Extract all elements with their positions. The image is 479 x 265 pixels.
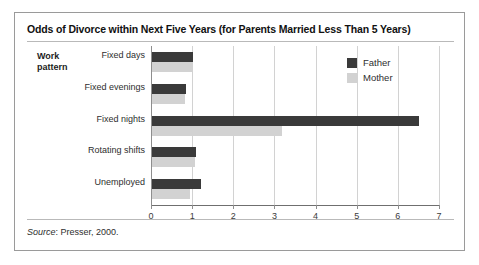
- bar-father-rotating-shifts: [152, 147, 196, 157]
- x-tick-mark: [439, 205, 440, 209]
- category-label-unemployed: Unemployed: [25, 177, 145, 187]
- x-tick-mark: [316, 205, 317, 209]
- bar-father-fixed-days: [152, 52, 193, 62]
- category-label-fixed-evenings: Fixed evenings: [25, 82, 145, 92]
- bar-mother-unemployed: [152, 189, 190, 199]
- x-tick-mark: [357, 205, 358, 209]
- footer-divider: [27, 219, 454, 220]
- bar-mother-fixed-evenings: [152, 94, 185, 104]
- bar-mother-rotating-shifts: [152, 157, 195, 167]
- bar-father-fixed-nights: [152, 116, 419, 126]
- bar-father-unemployed: [152, 179, 201, 189]
- gridline: [316, 46, 317, 205]
- category-label-rotating-shifts: Rotating shifts: [25, 145, 145, 155]
- x-tick-mark: [398, 205, 399, 209]
- bar-mother-fixed-days: [152, 62, 192, 72]
- x-tick-mark: [151, 205, 152, 209]
- x-axis-line: [151, 205, 439, 206]
- x-tick-mark: [274, 205, 275, 209]
- category-label-fixed-nights: Fixed nights: [25, 114, 145, 124]
- chart-title: Odds of Divorce within Next Five Years (…: [27, 23, 455, 35]
- source-text: : Presser, 2000.: [56, 227, 119, 237]
- source-word: Source: [27, 227, 56, 237]
- figure-panel: Odds of Divorce within Next Five Years (…: [14, 12, 465, 251]
- bar-mother-fixed-nights: [152, 126, 282, 136]
- x-tick-mark: [192, 205, 193, 209]
- gridline: [398, 46, 399, 205]
- title-divider: [27, 41, 454, 42]
- x-tick-mark: [233, 205, 234, 209]
- gridline: [439, 46, 440, 205]
- bar-father-fixed-evenings: [152, 84, 186, 94]
- plot-area: 01234567: [151, 46, 439, 205]
- gridline: [357, 46, 358, 205]
- category-label-fixed-days: Fixed days: [25, 50, 145, 60]
- source-note: Source: Presser, 2000.: [27, 227, 119, 237]
